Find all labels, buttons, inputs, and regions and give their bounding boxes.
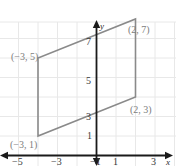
x-tick-label-neg5: −5 [12, 157, 23, 166]
y-tick-label-5: 5 [86, 76, 91, 86]
y-axis-name: y [100, 22, 104, 31]
vertex-label-bottom-left: (−3, 1) [10, 140, 37, 150]
x-axis [0, 152, 173, 159]
y-tick-label-1: 1 [87, 131, 92, 141]
x-tick-label-neg3: −3 [51, 157, 62, 166]
vertex-label-top-left: (−3, 5) [11, 52, 38, 62]
y-tick-label-7: 7 [86, 37, 91, 47]
x-axis-name: x [166, 158, 170, 166]
graph-screenshot: 7 5 3 1 −5 −3 −1 1 3 y x (−3, 5) (2, 7) … [0, 0, 176, 166]
vertex-label-top-right: (2, 7) [128, 25, 150, 35]
y-tick-label-3: 3 [86, 112, 91, 122]
y-axis [93, 20, 100, 166]
x-tick-label-1: 1 [113, 157, 118, 166]
x-tick-label-neg1: −1 [90, 157, 101, 166]
vertex-label-bottom-right: (2, 3) [130, 105, 152, 115]
x-tick-label-3: 3 [151, 157, 156, 166]
